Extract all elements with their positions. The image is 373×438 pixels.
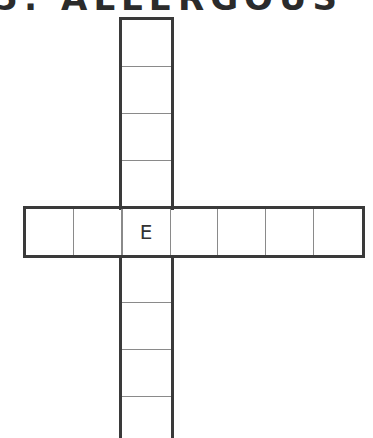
grid-cell[interactable] (218, 209, 266, 255)
grid-cell[interactable] (122, 350, 171, 397)
grid-cell[interactable] (314, 209, 362, 255)
grid-cell[interactable] (171, 209, 219, 255)
grid-cell[interactable] (122, 397, 171, 438)
grid-cell-intersection[interactable]: E (122, 209, 171, 255)
vertical-word-top (119, 17, 174, 210)
grid-cell[interactable] (122, 256, 171, 303)
grid-cell[interactable] (74, 209, 122, 255)
grid-cell[interactable] (122, 114, 171, 161)
puzzle-title-cropped: 5: ALLERGOUS (0, 0, 343, 18)
horizontal-word: E (23, 206, 365, 258)
grid-cell[interactable] (122, 161, 171, 208)
grid-cell[interactable] (122, 303, 171, 350)
grid-cell[interactable] (122, 20, 171, 67)
grid-cell[interactable] (122, 67, 171, 114)
grid-cell[interactable] (266, 209, 314, 255)
grid-cell[interactable] (26, 209, 74, 255)
vertical-word-bottom (119, 256, 174, 438)
